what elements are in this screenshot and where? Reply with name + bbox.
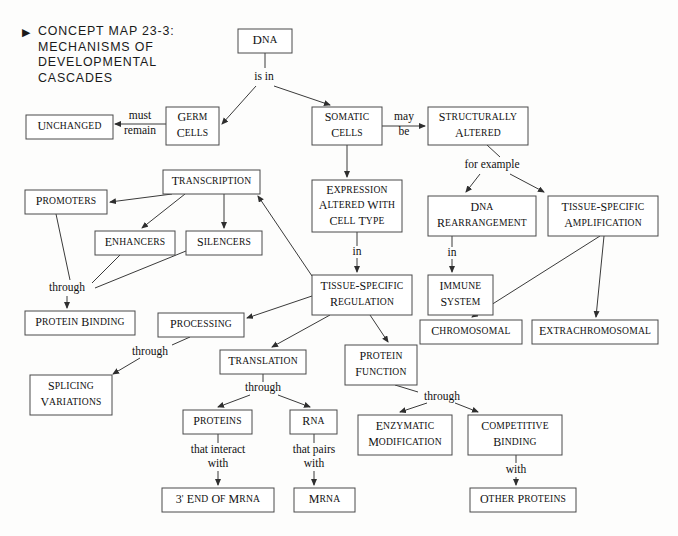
node-label-competitive: COMPETITIVE	[481, 419, 549, 433]
edge-protfunc-through	[395, 385, 418, 392]
node-label-enzymatic: MODIFICATION	[368, 435, 442, 449]
edge-tsr-transcription	[258, 196, 312, 276]
node-label-somatic_cells: SOMATIC	[325, 110, 370, 124]
node-label-silencers: SILENCERS	[197, 235, 251, 249]
node-proteins[interactable]: PROTEINS	[183, 410, 252, 434]
node-label-chromosomal: CHROMOSOMAL	[431, 324, 510, 338]
node-label-expression: ALTERED WITH	[319, 198, 395, 212]
node-label-competitive: BINDING	[493, 435, 536, 449]
edge-label-that_interact2: with	[208, 457, 229, 469]
node-label-germ_cells: GERM	[177, 110, 207, 124]
edge-tsr-translation	[272, 315, 330, 347]
edge-label-is_in: is in	[254, 70, 274, 82]
node-label-tsa: TISSUE-SPECIFIC	[562, 200, 645, 214]
node-translation[interactable]: TRANSLATION	[220, 350, 306, 374]
node-immune[interactable]: IMMUNESYSTEM	[428, 275, 493, 315]
node-label-translation: TRANSLATION	[228, 354, 298, 368]
node-label-proteins: PROTEINS	[193, 414, 242, 428]
node-promoters[interactable]: PROMOTERS	[25, 190, 107, 214]
edge-isin-somatic	[274, 86, 330, 105]
edge-label-in_expr: in	[353, 245, 362, 257]
edge-label-through_transl: through	[245, 381, 281, 394]
node-label-enhancers: ENHANCERS	[105, 235, 166, 249]
node-label-tsr: TISSUE-SPECIFIC	[321, 279, 404, 293]
node-protein_func[interactable]: PROTEINFUNCTION	[345, 345, 417, 385]
edge-label-for_example: for example	[464, 158, 519, 171]
node-three_end[interactable]: 3' END OF MRNA	[162, 488, 274, 512]
node-chromosomal[interactable]: CHROMOSOMAL	[420, 320, 522, 344]
edge-label-must_remain2: remain	[124, 124, 156, 136]
node-label-processing: PROCESSING	[170, 317, 232, 331]
node-enhancers[interactable]: ENHANCERS	[95, 231, 175, 255]
edge-enhancers-through	[92, 255, 120, 283]
node-label-rna: RNA	[302, 414, 324, 428]
node-label-immune: SYSTEM	[440, 295, 480, 309]
node-protein_bind[interactable]: PROTEIN BINDING	[25, 311, 135, 335]
node-label-promoters: PROMOTERS	[36, 194, 97, 208]
node-expression[interactable]: EXPRESSIONALTERED WITHCELL TYPE	[312, 180, 402, 232]
node-label-unchanged: UNCHANGED	[37, 119, 101, 133]
node-enzymatic[interactable]: ENZYMATICMODIFICATION	[358, 415, 452, 455]
node-other_prot[interactable]: OTHER PROTEINS	[470, 488, 576, 512]
edge-processing-thr	[172, 337, 190, 345]
node-label-enzymatic: ENZYMATIC	[376, 419, 435, 433]
node-label-dna: DNA	[253, 32, 278, 47]
edge-label-through_func: through	[424, 390, 460, 403]
edge-struct-forex	[487, 145, 500, 157]
node-processing[interactable]: PROCESSING	[158, 313, 244, 337]
node-mrna[interactable]: MRNA	[294, 488, 355, 512]
node-label-three_end: 3' END OF MRNA	[176, 492, 260, 506]
node-label-splicing: SPLICING	[48, 379, 94, 393]
node-label-protein_bind: PROTEIN BINDING	[35, 315, 124, 329]
edge-forex-dnarearr	[466, 174, 480, 192]
edge-trans-enhancers	[142, 194, 185, 228]
edge-tsr-protfunc	[370, 315, 388, 342]
node-rna[interactable]: RNA	[290, 410, 337, 434]
edge-isin-germ	[222, 86, 256, 124]
concept-map-diagram: is inmustremainmaybefor exampleininthrou…	[0, 0, 678, 536]
node-dna_rearr[interactable]: DNAREARRANGEMENT	[428, 196, 536, 236]
node-extrachrom[interactable]: EXTRACHROMOSOMAL	[532, 320, 658, 344]
node-label-struct_altered: ALTERED	[455, 126, 501, 140]
node-label-splicing: VARIATIONS	[40, 395, 101, 409]
edge-label-that_pairs2: with	[304, 457, 325, 469]
node-silencers[interactable]: SILENCERS	[186, 231, 262, 255]
edge-label-through_prot: through	[49, 281, 85, 294]
node-label-germ_cells: CELLS	[177, 126, 209, 140]
node-competitive[interactable]: COMPETITIVEBINDING	[468, 415, 562, 455]
node-label-expression: CELL TYPE	[329, 213, 384, 227]
edge-through-comp	[455, 403, 478, 412]
edge-label-that_pairs: that pairs	[293, 443, 336, 456]
edge-label-may_be2: be	[399, 125, 410, 137]
node-splicing[interactable]: SPLICINGVARIATIONS	[30, 375, 112, 415]
edge-tsa-extra	[596, 236, 604, 317]
node-layer: DNAGERMCELLSUNCHANGEDSOMATICCELLSSTRUCTU…	[25, 29, 658, 512]
node-label-dna_rearr: DNA	[471, 200, 494, 214]
node-label-extrachrom: EXTRACHROMOSOMAL	[539, 324, 651, 338]
edge-trans-promoters	[110, 194, 172, 202]
edge-label-may_be: may	[394, 110, 414, 123]
node-somatic_cells[interactable]: SOMATICCELLS	[312, 107, 382, 145]
node-label-struct_altered: STRUCTURALLY	[439, 110, 517, 124]
node-unchanged[interactable]: UNCHANGED	[26, 115, 113, 139]
node-germ_cells[interactable]: GERMCELLS	[166, 107, 219, 145]
edge-silencers-through	[95, 251, 186, 288]
node-label-other_prot: OTHER PROTEINS	[480, 492, 566, 506]
node-label-protein_func: PROTEIN	[359, 349, 402, 363]
node-tsa[interactable]: TISSUE-SPECIFICAMPLIFICATION	[548, 196, 658, 236]
node-label-expression: EXPRESSION	[326, 182, 387, 196]
node-label-tsa: AMPLIFICATION	[564, 216, 642, 230]
node-label-mrna: MRNA	[309, 492, 341, 506]
node-label-tsr: REGULATION	[330, 295, 394, 309]
edge-through-enzym	[400, 403, 427, 412]
node-transcription[interactable]: TRANSCRIPTION	[163, 170, 260, 194]
edge-forex-tsa	[510, 174, 544, 192]
edge-label-with_other: with	[506, 463, 527, 475]
edge-thr-splicing	[113, 358, 140, 374]
edge-label-must_remain: must	[129, 109, 152, 121]
node-label-somatic_cells: CELLS	[331, 126, 363, 140]
node-struct_altered[interactable]: STRUCTURALLYALTERED	[428, 107, 528, 145]
node-label-dna_rearr: REARRANGEMENT	[437, 216, 527, 230]
node-dna[interactable]: DNA	[238, 29, 292, 53]
node-tsr[interactable]: TISSUE-SPECIFICREGULATION	[312, 275, 412, 315]
